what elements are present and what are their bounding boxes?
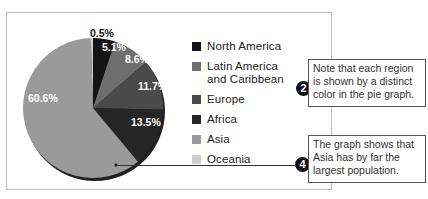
slice-label-oceania: 0.5% <box>90 27 115 39</box>
legend-swatch <box>192 135 201 144</box>
legend-item-latin-america: Latin America and Caribbean <box>192 60 292 86</box>
slice-label-asia: 60.6% <box>28 92 58 104</box>
legend-item-africa: Africa <box>192 113 292 126</box>
callout-box-4: The graph shows that Asia has by far the… <box>308 135 426 183</box>
callout-text: Note that each region is shown by a dist… <box>313 62 414 100</box>
callout-text: The graph shows that Asia has by far the… <box>313 138 414 176</box>
slice-label-africa: 13.5% <box>131 116 161 128</box>
legend-item-asia: Asia <box>192 133 292 146</box>
leader-line <box>116 165 304 166</box>
legend-label: Europe <box>207 93 292 106</box>
legend-label: North America <box>207 40 292 53</box>
legend-item-europe: Europe <box>192 93 292 106</box>
legend-label: Africa <box>207 113 292 126</box>
slice-label-europe: 11.7% <box>138 80 168 92</box>
legend-label: Asia <box>207 133 292 146</box>
chart-legend: North America Latin America and Caribbea… <box>192 40 292 173</box>
slice-label-latin-america: 8.6% <box>125 53 150 65</box>
slice-label-north-america: 5.1% <box>102 41 127 53</box>
callout-box-2: Note that each region is shown by a dist… <box>308 59 426 107</box>
legend-swatch <box>192 155 201 164</box>
legend-item-north-america: North America <box>192 40 292 53</box>
legend-label: Latin America and Caribbean <box>207 60 292 86</box>
legend-swatch <box>192 115 201 124</box>
legend-swatch <box>192 62 201 71</box>
legend-swatch <box>192 42 201 51</box>
legend-swatch <box>192 95 201 104</box>
